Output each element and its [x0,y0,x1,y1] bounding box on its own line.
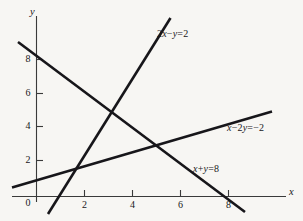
eq1-rhs: =2 [177,28,188,39]
eq2-op: −2 [232,122,243,133]
graph-canvas [0,0,303,221]
x-axis-label: x [289,186,294,197]
x-tick-label-6: 6 [174,199,187,210]
x-tick-label-2: 2 [78,199,91,210]
eq3-rhs: =8 [208,163,219,174]
equation-label-x-minus-2y: x−2y=−2 [227,122,264,133]
equation-label-x-plus-y: x+y=8 [193,163,219,174]
y-tick-label-4: 4 [22,120,34,131]
origin-label: 0 [22,197,34,208]
equation-label-2x-minus-y: 2x−y=2 [157,28,188,39]
x-tick-label-4: 4 [126,199,139,210]
y-tick-label-2: 2 [22,154,34,165]
y-axis-label: y [30,6,35,17]
y-tick-label-8: 8 [22,53,34,64]
y-tick-label-6: 6 [22,87,34,98]
x-tick-label-8: 8 [222,199,235,210]
plot-background [0,0,303,221]
eq2-rhs: =−2 [247,122,264,133]
